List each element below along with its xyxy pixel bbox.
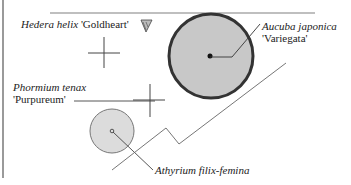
aucuba-species: Aucuba japonica	[262, 20, 337, 32]
label-phormium: Phormium tenax 'Purpureum'	[13, 81, 86, 105]
label-athyrium: Athyrium filix-femina	[155, 164, 249, 176]
hedera-species: Hedera helix	[21, 18, 78, 30]
phormium-species: Phormium tenax	[13, 81, 86, 93]
phormium-cross-marker	[133, 84, 165, 117]
label-aucuba: Aucuba japonica 'Variegata'	[262, 20, 337, 44]
phormium-cultivar: 'Purpureum'	[13, 93, 86, 105]
planting-plan-diagram: Hedera helix 'Goldheart' Aucuba japonica…	[0, 0, 351, 185]
aucuba-center-dot	[208, 54, 213, 59]
athyrium-circle	[90, 109, 134, 153]
triangle-marker-icon	[141, 20, 152, 32]
label-hedera: Hedera helix 'Goldheart'	[21, 18, 129, 30]
aucuba-cultivar: 'Variegata'	[262, 32, 337, 44]
hedera-cross-marker	[88, 37, 120, 68]
hedera-cultivar: 'Goldheart'	[81, 18, 129, 30]
